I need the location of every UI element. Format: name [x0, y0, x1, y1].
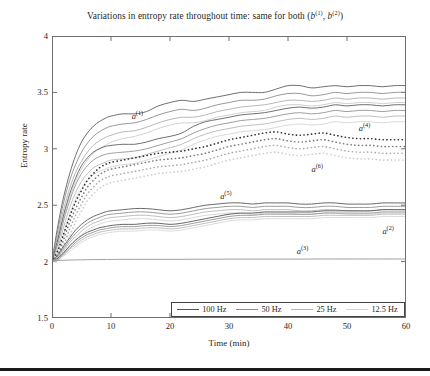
- y-tick-label: 4: [44, 31, 48, 41]
- legend-entry[interactable]: 12.5 Hz: [341, 305, 402, 314]
- x-tick-label: 20: [166, 321, 175, 331]
- legend-entry[interactable]: 50 Hz: [231, 305, 286, 314]
- page-rule: [0, 368, 430, 371]
- legend-line-swatch: [291, 309, 313, 310]
- x-axis-label: Time (min): [52, 338, 406, 348]
- curve-annotation-a4: a(4): [359, 124, 370, 133]
- legend-entry[interactable]: 25 Hz: [286, 305, 341, 314]
- curve-annotation-a6: a(6): [312, 165, 323, 174]
- legend-label: 25 Hz: [316, 305, 336, 314]
- y-axis-label: Entropy rate: [19, 123, 29, 168]
- chart-title: Variations in entropy rate throughout ti…: [0, 11, 430, 21]
- x-tick-label: 60: [402, 321, 411, 331]
- plot-area: Entropy rate Time (min) 1.522.533.54 010…: [52, 36, 406, 318]
- x-tick-label: 10: [107, 321, 116, 331]
- y-tick-label: 1.5: [37, 313, 48, 323]
- y-tick-label: 2: [44, 257, 48, 267]
- curve-annotation-a2: a(2): [382, 227, 393, 236]
- y-tick-label: 3.5: [37, 87, 48, 97]
- legend-line-swatch: [236, 309, 258, 310]
- legend-entry[interactable]: 100 Hz: [172, 305, 231, 314]
- legend-label: 100 Hz: [202, 305, 226, 314]
- curve-annotation-a5: a(5): [220, 192, 231, 201]
- y-tick-label: 2.5: [37, 200, 48, 210]
- legend-label: 12.5 Hz: [371, 305, 397, 314]
- x-tick-label: 50: [343, 321, 352, 331]
- x-tick-label: 0: [50, 321, 54, 331]
- x-tick-label: 30: [225, 321, 234, 331]
- chart-legend[interactable]: 100 Hz50 Hz25 Hz12.5 Hz: [171, 302, 405, 317]
- legend-label: 50 Hz: [261, 305, 281, 314]
- x-tick-label: 40: [284, 321, 293, 331]
- y-tick-label: 3: [44, 144, 48, 154]
- figure-canvas: Variations in entropy rate throughout ti…: [0, 0, 430, 376]
- legend-line-swatch: [177, 309, 199, 310]
- curve-annotation-a1: a(1): [132, 112, 143, 121]
- plot-svg: [52, 36, 406, 318]
- curve-annotation-a3: a(3): [297, 247, 308, 256]
- legend-line-swatch: [346, 309, 368, 310]
